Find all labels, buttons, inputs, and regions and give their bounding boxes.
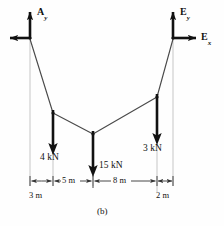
load-label-15kn: 15 kN	[99, 161, 123, 171]
cable-polyline	[30, 39, 173, 134]
reaction-label-ex-base: E	[201, 31, 208, 42]
node-D	[155, 95, 158, 98]
dimension-label-5m: 5 m	[62, 176, 75, 185]
figure-caption: (b)	[97, 207, 108, 216]
dimension-label-2m: 2 m	[156, 191, 169, 200]
node-B	[51, 111, 54, 114]
figure-container: Ay Ey Ex 4 kN 15 kN 3 kN 3 m 5 m 8 m 2 m…	[0, 0, 224, 226]
load-label-3kn: 3 kN	[143, 144, 162, 154]
reaction-label-ay-sub: y	[44, 14, 47, 22]
node-E	[171, 36, 174, 39]
reaction-label-ey: Ey	[180, 7, 190, 20]
load-label-4kn: 4 kN	[40, 153, 59, 163]
dimension-label-3m: 3 m	[29, 191, 42, 200]
dimension-line-row	[30, 174, 173, 188]
reaction-label-ey-sub: y	[187, 14, 190, 22]
dimension-label-8m: 8 m	[113, 176, 126, 185]
cable-nodes	[28, 36, 174, 135]
node-A	[28, 36, 31, 39]
node-C	[91, 132, 94, 135]
reaction-label-ey-base: E	[180, 6, 187, 17]
load-arrows	[53, 94, 157, 169]
cable-profile	[30, 39, 173, 134]
reaction-label-ex: Ex	[201, 32, 211, 45]
reaction-label-ay: Ay	[37, 7, 47, 20]
reaction-label-ex-sub: x	[208, 39, 212, 47]
